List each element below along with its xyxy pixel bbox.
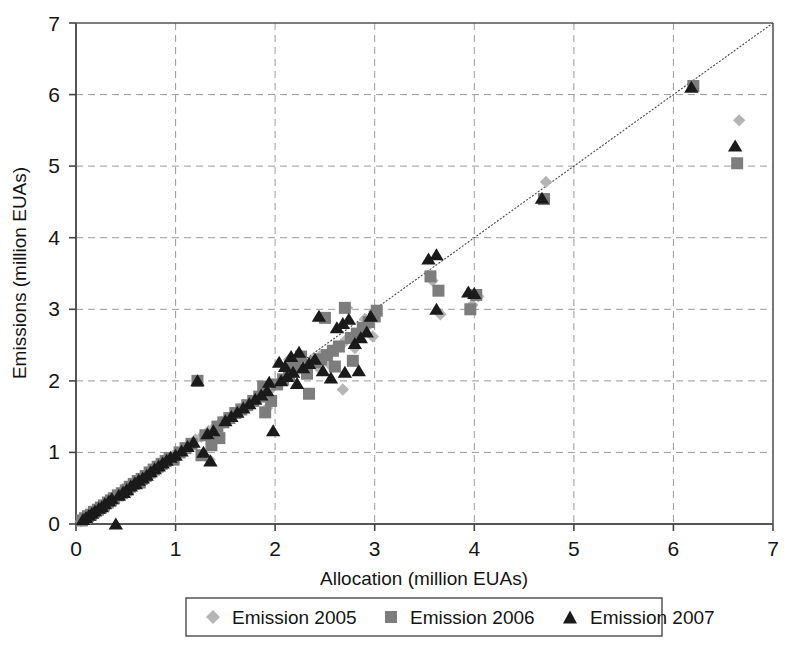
data-point (347, 355, 359, 367)
y-tick-label-5: 5 (48, 154, 60, 177)
data-point (731, 157, 743, 169)
x-tick-label-3: 3 (369, 537, 381, 560)
square-marker-icon (385, 611, 397, 623)
y-tick-label-6: 6 (48, 83, 60, 106)
data-point (303, 388, 315, 400)
x-tick-label-2: 2 (269, 537, 281, 560)
data-point (339, 302, 351, 314)
data-point (329, 361, 341, 373)
x-tick-label-6: 6 (668, 537, 680, 560)
data-point (333, 341, 345, 353)
y-tick-label-1: 1 (48, 440, 60, 463)
y-tick-label-4: 4 (48, 226, 60, 249)
legend-label-2007: Emission 2007 (590, 607, 715, 628)
x-tick-label-7: 7 (767, 537, 779, 560)
x-tick-label-4: 4 (468, 537, 480, 560)
y-tick-label-0: 0 (48, 512, 60, 535)
x-tick-label-5: 5 (568, 537, 580, 560)
y-axis-ticks (69, 23, 76, 524)
y-tick-label-7: 7 (48, 12, 60, 35)
data-point (265, 395, 277, 407)
data-point (464, 303, 476, 315)
scatter-plot-svg: 0 1 2 3 4 5 6 7 0 1 2 3 4 5 6 7 Allocati… (0, 0, 793, 647)
x-tick-label-1: 1 (170, 537, 182, 560)
x-axis-title: Allocation (million EUAs) (320, 568, 528, 589)
data-point (424, 270, 436, 282)
data-point (432, 285, 444, 297)
data-point (259, 406, 271, 418)
x-axis-ticks (76, 524, 773, 531)
y-tick-label-3: 3 (48, 297, 60, 320)
y-tick-label-2: 2 (48, 369, 60, 392)
x-tick-label-0: 0 (70, 537, 82, 560)
chart-figure: 0 1 2 3 4 5 6 7 0 1 2 3 4 5 6 7 Allocati… (0, 0, 793, 647)
legend: Emission 2005 Emission 2006 Emission 200… (186, 598, 715, 636)
legend-label-2005: Emission 2005 (232, 607, 357, 628)
y-axis-title: Emissions (million EUAs) (9, 167, 30, 379)
legend-label-2006: Emission 2006 (410, 607, 535, 628)
